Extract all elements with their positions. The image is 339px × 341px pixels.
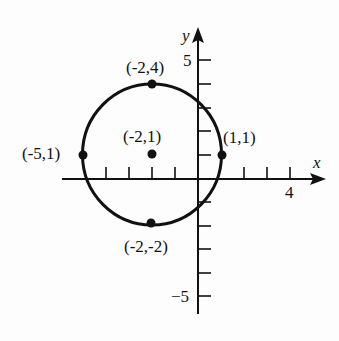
x-tick-label-4: 4 bbox=[285, 183, 294, 202]
x-axis-label: x bbox=[312, 153, 321, 172]
point-label-top: (-2,4) bbox=[126, 58, 164, 77]
point-label-right: (1,1) bbox=[223, 128, 256, 147]
point-top bbox=[148, 80, 157, 89]
point-label-bottom: (-2,-2) bbox=[124, 237, 168, 256]
point-right bbox=[218, 151, 227, 160]
y-tick-label-neg5: −5 bbox=[171, 287, 189, 306]
y-axis-label: y bbox=[180, 26, 190, 45]
point-label-center: (-2,1) bbox=[123, 127, 161, 146]
coordinate-plane: y x 5 −5 4 (-2,4) (-2,1) (-5,1) (1,1) (-… bbox=[0, 0, 339, 341]
point-center bbox=[148, 150, 157, 159]
y-tick-label-5: 5 bbox=[183, 51, 192, 70]
point-left bbox=[79, 151, 88, 160]
point-label-left: (-5,1) bbox=[22, 144, 60, 163]
point-bottom bbox=[147, 219, 156, 228]
